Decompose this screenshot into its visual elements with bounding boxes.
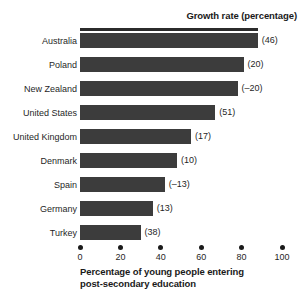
x-axis-tick-label: 80 — [222, 252, 262, 263]
bar: (10) — [80, 153, 177, 168]
bar-value-label: (13) — [157, 201, 173, 216]
bar-row: Poland(20) — [0, 57, 301, 81]
bar-fill — [80, 177, 165, 192]
x-axis-tick-dot — [158, 245, 163, 250]
bar-row: United Kingdom(17) — [0, 129, 301, 153]
bar-fill — [80, 57, 244, 72]
x-axis-tick-dot — [78, 245, 83, 250]
bar-row: Germany(13) — [0, 201, 301, 225]
category-label: New Zealand — [1, 82, 77, 97]
bar-fill — [80, 129, 191, 144]
category-label: Spain — [1, 178, 77, 193]
bar-row: New Zealand(–20) — [0, 81, 301, 105]
x-axis-tick-label: 0 — [60, 252, 100, 263]
bar-row: Spain(–13) — [0, 177, 301, 201]
x-axis-tick-label: 20 — [100, 252, 140, 263]
x-axis-tick-dot — [239, 245, 244, 250]
growth-rate-header: Growth rate (percentage) — [186, 10, 297, 21]
x-axis-tick-label: 40 — [141, 252, 181, 263]
x-axis: 020406080100 — [0, 245, 301, 267]
bar-chart: Growth rate (percentage) Australia(46)Po… — [0, 0, 301, 295]
x-axis-title: Percentage of young people entering post… — [80, 266, 295, 289]
bar-value-label: (46) — [262, 33, 278, 48]
bar-rows: Australia(46)Poland(20)New Zealand(–20)U… — [0, 33, 301, 249]
bar-fill — [80, 33, 258, 48]
bar: (38) — [80, 225, 141, 240]
bar-value-label: (–13) — [169, 177, 190, 192]
category-label: United Kingdom — [1, 130, 77, 145]
bar: (13) — [80, 201, 153, 216]
bar: (–13) — [80, 177, 165, 192]
bar: (17) — [80, 129, 191, 144]
category-label: Germany — [1, 202, 77, 217]
bar-fill — [80, 201, 153, 216]
category-label: United States — [1, 106, 77, 121]
x-axis-tick-label: 100 — [262, 252, 301, 263]
bar-fill — [80, 81, 238, 96]
bar-value-label: (38) — [145, 225, 161, 240]
category-label: Turkey — [1, 226, 77, 241]
bar: (46) — [80, 33, 258, 48]
x-axis-title-line-1: Percentage of young people entering — [80, 266, 295, 278]
bar: (–20) — [80, 81, 238, 96]
bar-value-label: (51) — [219, 105, 235, 120]
category-label: Poland — [1, 58, 77, 73]
bar-fill — [80, 225, 141, 240]
bar-value-label: (20) — [248, 57, 264, 72]
bar-fill — [80, 153, 177, 168]
x-axis-tick-dot — [280, 245, 285, 250]
bar: (20) — [80, 57, 244, 72]
bar-row: Australia(46) — [0, 33, 301, 57]
bar-row: United States(51) — [0, 105, 301, 129]
bar-fill — [80, 105, 215, 120]
x-axis-tick-dot — [118, 245, 123, 250]
bar: (51) — [80, 105, 215, 120]
x-axis-title-line-2: post-secondary education — [80, 278, 295, 290]
bar-value-label: (10) — [181, 153, 197, 168]
category-label: Denmark — [1, 154, 77, 169]
category-label: Australia — [1, 34, 77, 49]
bar-value-label: (–20) — [242, 81, 263, 96]
x-axis-tick-dot — [199, 245, 204, 250]
bar-value-label: (17) — [195, 129, 211, 144]
x-axis-tick-label: 60 — [181, 252, 221, 263]
bar-row: Denmark(10) — [0, 153, 301, 177]
header-divider-rule — [80, 28, 258, 31]
